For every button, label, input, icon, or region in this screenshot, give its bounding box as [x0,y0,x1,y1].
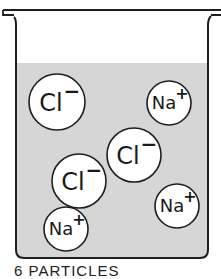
svg-text:Na: Na [49,218,74,239]
chloride-ion: Cl− [107,128,161,182]
svg-text:Cl: Cl [116,142,139,170]
svg-text:+: + [72,210,85,229]
svg-text:−: − [141,132,158,156]
svg-text:Cl: Cl [61,168,84,196]
svg-text:+: + [183,187,196,206]
svg-text:−: − [86,158,103,182]
sodium-ion: Na+ [44,207,88,251]
sodium-ion: Na+ [147,81,191,125]
beaker-rim [3,10,221,15]
svg-text:Cl: Cl [39,89,62,117]
svg-text:Na: Na [160,195,185,216]
svg-text:+: + [175,84,188,103]
svg-text:−: − [64,79,81,103]
svg-text:Na: Na [152,92,177,113]
chloride-ion: Cl− [29,74,85,130]
chloride-ion: Cl− [52,154,106,208]
sodium-ion: Na+ [155,184,199,228]
particle-count-caption: 6 PARTICLES [14,262,119,279]
